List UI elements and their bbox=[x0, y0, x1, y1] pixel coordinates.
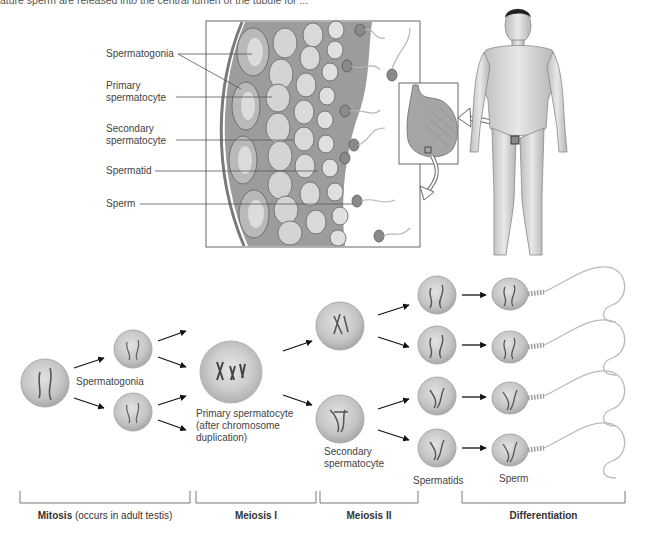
label-primary-spermatocyte: Primary spermatocyte bbox=[106, 80, 166, 104]
label-line: (after chromosome bbox=[196, 420, 293, 432]
label-line: Secondary bbox=[106, 123, 166, 135]
label-line: Primary spermatocyte bbox=[196, 408, 293, 420]
sperm-cells bbox=[492, 267, 625, 478]
label-spermatid: Spermatid bbox=[106, 165, 152, 177]
label-sperm: Sperm bbox=[106, 198, 135, 210]
stage-meiosis-2: Meiosis II bbox=[320, 510, 418, 521]
label-line: Primary bbox=[106, 80, 166, 92]
label-line: spermatocyte bbox=[106, 135, 166, 147]
stage-meiosis-1: Meiosis I bbox=[196, 510, 316, 521]
stage-mitosis: Mitosis (occurs in adult testis) bbox=[20, 510, 190, 521]
label-line: Secondary bbox=[324, 446, 384, 458]
stage-name-bold: Mitosis bbox=[38, 510, 72, 521]
stage-note: (occurs in adult testis) bbox=[72, 510, 172, 521]
process-label-sperm: Sperm bbox=[499, 473, 528, 485]
genital-region-marker bbox=[511, 136, 519, 144]
process-label-secondary-spermatocyte: Secondary spermatocyte bbox=[324, 446, 384, 470]
stage-differentiation: Differentiation bbox=[462, 510, 625, 521]
cell-lineage bbox=[21, 267, 625, 478]
label-spermatogonia: Spermatogonia bbox=[106, 48, 174, 60]
process-label-primary-spermatocyte: Primary spermatocyte (after chromosome d… bbox=[196, 408, 293, 444]
label-secondary-spermatocyte: Secondary spermatocyte bbox=[106, 123, 166, 147]
label-line: spermatocyte bbox=[324, 458, 384, 470]
stage-name-bold: Differentiation bbox=[510, 510, 578, 521]
stage-name-bold: Meiosis I bbox=[235, 510, 277, 521]
tubule-section-panel bbox=[206, 21, 420, 247]
process-label-spermatids: Spermatids bbox=[413, 475, 464, 487]
human-figure bbox=[470, 9, 567, 255]
label-line: spermatocyte bbox=[106, 92, 166, 104]
stage-name-bold: Meiosis II bbox=[346, 510, 391, 521]
spermatids bbox=[418, 276, 456, 467]
stage-brackets bbox=[20, 491, 625, 503]
label-line: duplication) bbox=[196, 432, 293, 444]
process-label-spermatogonia: Spermatogonia bbox=[76, 376, 144, 388]
testis-inset bbox=[399, 83, 458, 164]
